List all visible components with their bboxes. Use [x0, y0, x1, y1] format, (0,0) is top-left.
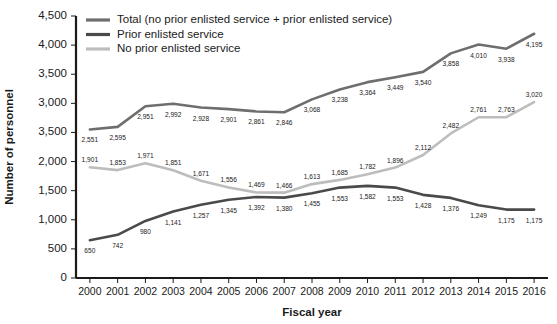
- data-point-label: 4,195: [526, 41, 543, 48]
- data-point-label: 1,175: [526, 217, 543, 224]
- data-point-label: 2,763: [498, 106, 515, 113]
- data-point-label: 2,482: [443, 122, 460, 129]
- legend-label: Prior enlisted service: [117, 28, 224, 40]
- data-point-label: 3,020: [526, 91, 543, 98]
- data-point-label: 3,449: [387, 84, 404, 91]
- data-point-label: 1,853: [109, 159, 126, 166]
- y-tick-label: 4,000: [38, 38, 67, 50]
- data-point-label: 980: [140, 228, 151, 235]
- data-point-label: 3,858: [443, 60, 460, 67]
- data-point-label: 1,613: [304, 173, 321, 180]
- data-point-label: 2,861: [248, 118, 265, 125]
- x-tick-label: 2016: [522, 285, 546, 297]
- x-tick-label: 2010: [356, 285, 380, 297]
- x-tick-label: 2001: [106, 285, 130, 297]
- y-tick-label: 3,000: [38, 96, 67, 108]
- data-point-label: 1,466: [276, 182, 293, 189]
- data-point-label: 2,901: [220, 116, 237, 123]
- data-point-label: 1,685: [332, 169, 349, 176]
- x-tick-label: 2013: [439, 285, 463, 297]
- y-tick-label: 500: [48, 242, 67, 254]
- y-tick-label: 1,500: [38, 184, 67, 196]
- y-axis-title: Number of personnel: [3, 89, 15, 205]
- x-tick-label: 2012: [411, 285, 435, 297]
- line-chart: 4,5004,0003,5003,0003,5002,0001,5001,000…: [0, 0, 557, 324]
- legend-label: No prior enlisted service: [117, 42, 240, 54]
- data-point-label: 3,068: [304, 106, 321, 113]
- x-tick-label: 2004: [189, 285, 213, 297]
- data-point-label: 1,782: [359, 163, 376, 170]
- x-tick-label: 2009: [328, 285, 352, 297]
- data-point-label: 2,951: [137, 113, 154, 120]
- data-point-label: 1,851: [165, 159, 182, 166]
- x-tick-label: 2007: [273, 285, 297, 297]
- x-tick-label: 2005: [217, 285, 241, 297]
- data-point-label: 2,551: [82, 136, 99, 143]
- data-point-label: 4,010: [470, 52, 487, 59]
- data-point-label: 1,896: [387, 157, 404, 164]
- y-tick-label: 3,500: [38, 125, 67, 137]
- data-point-label: 1,392: [248, 204, 265, 211]
- y-tick-label: 0: [61, 271, 67, 283]
- data-point-label: 1,376: [443, 205, 460, 212]
- legend-label: Total (no prior enlisted service + prior…: [117, 13, 392, 25]
- y-axis-group: 4,5004,0003,5003,0003,5002,0001,5001,000…: [3, 9, 76, 283]
- data-point-label: 2,761: [470, 106, 487, 113]
- x-axis-group: 2000200120022003200420052006200720082009…: [76, 278, 548, 318]
- y-tick-label: 1,000: [38, 213, 67, 225]
- y-tick-label: 4,500: [38, 9, 67, 21]
- data-point-label: 2,992: [165, 111, 182, 118]
- data-point-label: 1,582: [359, 193, 376, 200]
- data-point-label: 2,846: [276, 119, 293, 126]
- x-tick-label: 2008: [300, 285, 324, 297]
- data-point-label: 1,469: [248, 181, 265, 188]
- data-point-label: 2,928: [193, 115, 210, 122]
- data-point-label: 2,112: [415, 144, 431, 151]
- chart-legend: Total (no prior enlisted service + prior…: [86, 13, 392, 54]
- data-point-label: 3,238: [332, 96, 349, 103]
- data-point-label: 1,556: [220, 176, 237, 183]
- y-tick-labels: 4,5004,0003,5003,0003,5002,0001,5001,000…: [38, 9, 67, 283]
- x-tick-label: 2015: [495, 285, 519, 297]
- data-point-label: 742: [112, 242, 123, 249]
- series-lines-group: [90, 34, 534, 240]
- data-point-label: 3,364: [359, 89, 376, 96]
- data-point-label: 1,257: [193, 212, 210, 219]
- x-tick-label: 2014: [467, 285, 491, 297]
- data-point-label: 3,938: [498, 56, 515, 63]
- x-tick-labels: 2000200120022003200420052006200720082009…: [78, 285, 546, 297]
- data-point-label: 1,249: [470, 212, 487, 219]
- y-tick-label: 2,000: [38, 155, 67, 167]
- data-point-label: 3,540: [415, 79, 432, 86]
- y-tick-label: 3,500: [38, 67, 67, 79]
- x-tick-label: 2003: [161, 285, 185, 297]
- data-point-label: 1,455: [304, 200, 321, 207]
- x-axis-title: Fiscal year: [282, 306, 342, 318]
- data-point-label: 1,553: [387, 195, 404, 202]
- data-point-label: 650: [84, 247, 95, 254]
- data-point-label: 1,901: [82, 156, 99, 163]
- data-point-label: 1,553: [332, 195, 349, 202]
- series-point-labels-group: 2,5512,5952,9512,9922,9282,9012,8612,846…: [82, 41, 543, 254]
- data-point-label: 1,175: [498, 217, 515, 224]
- data-point-label: 1,671: [193, 170, 210, 177]
- data-point-label: 2,595: [109, 134, 126, 141]
- x-tick-label: 2006: [245, 285, 269, 297]
- series-line: [90, 186, 534, 240]
- data-point-label: 1,345: [220, 207, 237, 214]
- chart-canvas: 4,5004,0003,5003,0003,5002,0001,5001,000…: [0, 0, 557, 324]
- data-point-label: 1,380: [276, 205, 293, 212]
- x-tick-label: 2002: [134, 285, 158, 297]
- x-tick-label: 2000: [78, 285, 102, 297]
- data-point-label: 1,428: [415, 202, 432, 209]
- x-tick-label: 2011: [384, 285, 407, 297]
- data-point-label: 1,971: [137, 152, 154, 159]
- data-point-label: 1,141: [165, 219, 182, 226]
